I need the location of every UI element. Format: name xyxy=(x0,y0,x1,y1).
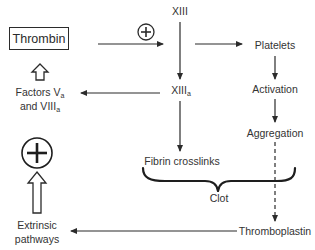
aggregation-label: Aggregation xyxy=(247,127,304,139)
hollow-arrow-factors-to-thrombin xyxy=(32,64,48,80)
factors-line-1-sub: a xyxy=(61,92,65,99)
thromboplastin-node: Thromboplastin xyxy=(239,225,311,237)
fibrin-label: Fibrin crosslinks xyxy=(144,155,219,167)
extrinsic-node: Extrinsic pathways xyxy=(15,219,59,245)
positive-feedback-icon-large xyxy=(22,138,52,168)
activation-node: Activation xyxy=(252,83,298,95)
extrinsic-line-2: pathways xyxy=(15,233,59,245)
xiii-label: XIII xyxy=(172,5,188,17)
extrinsic-line-1: Extrinsic xyxy=(15,219,59,231)
platelets-node: Platelets xyxy=(255,39,295,51)
thrombin-label: Thrombin xyxy=(13,32,66,46)
clot-node: Clot xyxy=(210,192,229,204)
clot-label: Clot xyxy=(210,192,229,204)
platelets-label: Platelets xyxy=(255,39,295,51)
xiiia-label: XIII xyxy=(171,84,187,96)
aggregation-node: Aggregation xyxy=(247,127,304,139)
thrombin-node: Thrombin xyxy=(9,27,69,50)
positive-feedback-icon-small xyxy=(138,24,154,40)
activation-label: Activation xyxy=(252,83,298,95)
coagulation-diagram: Thrombin XIII XIIIa Platelets Activation… xyxy=(0,0,315,250)
thromboplastin-label: Thromboplastin xyxy=(239,225,311,237)
xiii-node: XIII xyxy=(172,5,188,17)
factors-line-1: Factors Va xyxy=(16,86,65,98)
hollow-arrow-extrinsic-to-positive xyxy=(28,172,46,213)
fibrin-node: Fibrin crosslinks xyxy=(144,155,219,167)
factors-node: Factors Va and VIIIa xyxy=(16,86,65,112)
factors-line-2: and VIIIa xyxy=(16,100,65,112)
xiiia-node: XIIIa xyxy=(171,84,191,96)
factors-line-2-text: and VIII xyxy=(20,100,56,112)
factors-line-1-text: Factors V xyxy=(16,86,61,98)
factors-line-2-sub: a xyxy=(56,106,60,113)
xiiia-subscript: a xyxy=(187,90,191,97)
clot-brace xyxy=(143,168,295,191)
